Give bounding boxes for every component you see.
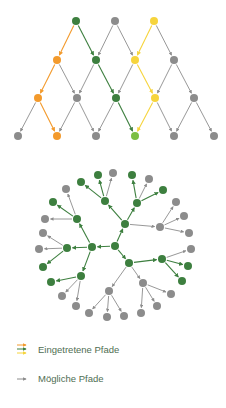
tree-path-taken bbox=[85, 185, 101, 197]
lattice-node-gray bbox=[14, 132, 22, 140]
tree-node-gray bbox=[137, 309, 145, 317]
lattice-node-gray bbox=[73, 94, 81, 102]
lattice-path-taken bbox=[40, 64, 54, 93]
tree-path-possible bbox=[112, 295, 122, 311]
tree-path-possible bbox=[148, 285, 166, 292]
lattice-path-taken bbox=[137, 64, 152, 93]
lattice-path-possible bbox=[59, 64, 74, 93]
tree-node-green bbox=[125, 259, 133, 267]
taken-paths-arrows-icon bbox=[16, 342, 28, 356]
lattice-path-taken bbox=[118, 102, 132, 131]
tree-node-gray bbox=[185, 229, 193, 237]
tree-path-possible bbox=[130, 224, 155, 226]
tree-path-possible bbox=[112, 267, 126, 286]
lattice-path-possible bbox=[156, 25, 171, 55]
tree-node-gray bbox=[156, 223, 164, 231]
tree-path-possible bbox=[68, 194, 75, 214]
tree-node-green bbox=[178, 277, 186, 285]
lattice-path-taken bbox=[59, 25, 73, 55]
lattice-node-green bbox=[72, 17, 80, 25]
tree-node-gray bbox=[153, 302, 161, 310]
lattice-node-gray bbox=[190, 94, 198, 102]
tree-path-taken bbox=[83, 252, 90, 271]
tree-node-gray bbox=[85, 309, 93, 317]
tree-path-possible bbox=[107, 296, 108, 312]
tree-node-gray bbox=[120, 312, 128, 320]
tree-node-gray bbox=[145, 175, 153, 183]
tree-path-possible bbox=[48, 236, 63, 245]
lattice-path-possible bbox=[98, 25, 112, 55]
tree-path-possible bbox=[139, 184, 146, 199]
legend-possible-paths: Mögliche Pfade bbox=[16, 373, 103, 384]
tree-path-possible bbox=[165, 218, 179, 225]
tree-node-gray bbox=[172, 198, 180, 206]
lattice-node-orange bbox=[53, 132, 61, 140]
tree-path-possible bbox=[141, 288, 142, 308]
tree-node-green bbox=[77, 178, 85, 186]
tree-path-taken bbox=[47, 251, 63, 263]
tree-node-gray bbox=[139, 279, 147, 287]
lattice-path-possible bbox=[196, 102, 211, 131]
tree-path-taken bbox=[80, 224, 90, 243]
tree-path-taken bbox=[56, 277, 76, 281]
tree-path-taken bbox=[57, 205, 72, 216]
tree-path-possible bbox=[106, 178, 111, 196]
lattice-path-possible bbox=[157, 102, 171, 131]
tree-node-green bbox=[184, 262, 192, 270]
tree-node-green bbox=[128, 171, 136, 179]
lattice-node-gray bbox=[111, 17, 119, 25]
tree-node-green bbox=[63, 244, 71, 252]
tree-node-green bbox=[101, 197, 109, 205]
tree-node-gray bbox=[35, 245, 43, 253]
lattice-path-possible bbox=[99, 102, 114, 131]
tree-node-green bbox=[158, 255, 166, 263]
lattice-node-gray bbox=[92, 132, 100, 140]
tree-node-green bbox=[121, 220, 129, 228]
lattice-node-gray bbox=[170, 56, 178, 64]
tree-node-green bbox=[39, 263, 47, 271]
tree-path-taken bbox=[109, 205, 122, 220]
tree-node-green bbox=[111, 242, 119, 250]
tree-node-gray bbox=[58, 292, 66, 300]
tree-path-possible bbox=[167, 251, 186, 258]
lattice-path-possible bbox=[177, 102, 192, 131]
lattice-node-yellow bbox=[150, 17, 158, 25]
lattice-path-possible bbox=[117, 25, 132, 55]
tree-node-gray bbox=[180, 212, 188, 220]
tree-node-green bbox=[133, 199, 141, 207]
tree-node-green bbox=[47, 278, 55, 286]
tree-node-gray bbox=[62, 185, 70, 193]
tree-path-taken bbox=[167, 260, 183, 264]
tree-path-taken bbox=[99, 180, 103, 196]
tree-node-green bbox=[73, 215, 81, 223]
tree-path-taken bbox=[134, 260, 157, 263]
tree-path-taken bbox=[117, 229, 123, 241]
tree-node-green bbox=[159, 186, 167, 194]
lattice-path-possible bbox=[79, 102, 93, 131]
tree-path-taken bbox=[165, 263, 178, 277]
lattice-path-possible bbox=[176, 64, 191, 93]
tree-node-green bbox=[49, 198, 57, 206]
legend-taken-label: Eingetretene Pfade bbox=[38, 344, 119, 355]
legend-possible-label: Mögliche Pfade bbox=[38, 373, 103, 384]
tree-node-gray bbox=[103, 313, 111, 321]
lattice-path-taken bbox=[138, 102, 153, 131]
lattice-node-green bbox=[92, 56, 100, 64]
tree-node-green bbox=[88, 243, 96, 251]
lattice-node-yellow bbox=[151, 94, 159, 102]
tree-node-green bbox=[77, 272, 85, 280]
tree-node-gray bbox=[105, 287, 113, 295]
lattice-path-possible bbox=[60, 102, 75, 131]
tree-path-possible bbox=[163, 207, 173, 223]
lattice-path-taken bbox=[78, 25, 93, 55]
lattice-paths bbox=[21, 25, 212, 131]
lattice-node-gray bbox=[170, 132, 178, 140]
tree-path-possible bbox=[165, 228, 184, 232]
lattice-node-yellow bbox=[131, 56, 139, 64]
tree-path-possible bbox=[132, 267, 140, 278]
lattice-node-orange bbox=[34, 94, 42, 102]
tree-node-gray bbox=[109, 169, 117, 177]
tree-node-green bbox=[94, 171, 102, 179]
lattice-path-possible bbox=[79, 64, 93, 93]
lattice-path-taken bbox=[40, 102, 54, 131]
